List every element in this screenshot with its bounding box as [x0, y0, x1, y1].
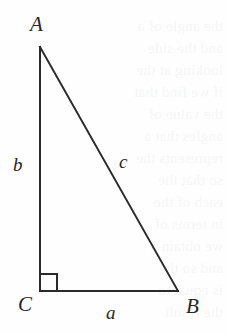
right-angle-mark: [40, 274, 57, 291]
side-label-a: a: [106, 303, 116, 322]
triangle-drawing: [0, 0, 227, 333]
vertex-label-b: B: [186, 296, 199, 317]
side-c-line: [40, 47, 178, 291]
vertex-label-c: C: [18, 294, 32, 315]
geometry-figure: the angle of aand the sidelooking at the…: [0, 0, 227, 333]
vertex-label-a: A: [30, 14, 43, 35]
side-label-c: c: [119, 152, 127, 171]
side-label-b: b: [13, 155, 23, 174]
